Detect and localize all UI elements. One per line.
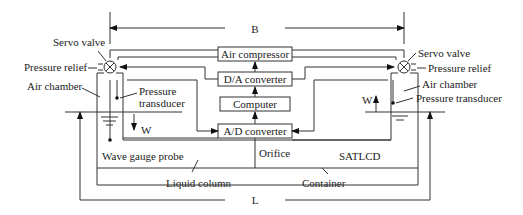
ad-converter-label: A/D converter [223,125,287,137]
ad-converter-block: A/D converter [218,124,292,138]
left-w-label: W [141,124,152,136]
right-pressure-transducer-label: Pressure transducer [416,92,502,104]
left-air-chamber-label: Air chamber [27,80,83,92]
liquid-column-label: Liquid column [166,177,232,189]
wave-gauge-probe-label: Wave gauge probe [102,150,184,162]
left-pressure-transducer-label-2: transducer [139,97,185,109]
computer-block: Computer [220,97,290,111]
left-pressure-transducer-label-1: Pressure [139,85,176,97]
dimension-b: B [110,12,404,44]
left-servo-valve [98,61,116,73]
right-pressure-relief-label: Pressure relief [428,62,492,74]
right-w-label: W [362,94,373,106]
satlcd-diagram: B Air compressor D/A converter Computer … [0,0,523,215]
da-converter-label: D/A converter [224,73,287,85]
wave-gauge-probe-dot [108,138,112,142]
computer-label: Computer [233,98,277,110]
dimension-l-label: L [252,194,259,206]
orifice-label: Orifice [259,147,290,159]
left-transducer-dot [115,96,119,100]
right-servo-valve [398,61,416,73]
dimension-b-label: B [251,23,258,35]
right-air-chamber-label: Air chamber [422,78,478,90]
left-pressure-relief-label: Pressure relief [24,61,88,73]
air-compressor-block: Air compressor [218,47,292,61]
left-servo-valve-label: Servo valve [53,36,105,48]
air-compressor-label: Air compressor [221,48,289,60]
right-servo-valve-label: Servo valve [418,47,470,59]
da-converter-block: D/A converter [218,72,292,86]
container-label: Container [302,177,346,189]
satlcd-label: SATLCD [339,150,381,162]
